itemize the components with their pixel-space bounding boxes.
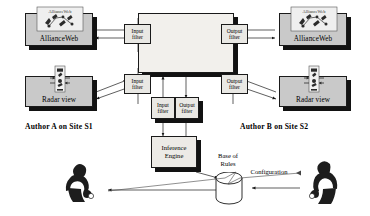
- diagram-canvas: AllianceWeb AllianceWeb: [0, 0, 370, 216]
- configuration-links: [0, 0, 370, 216]
